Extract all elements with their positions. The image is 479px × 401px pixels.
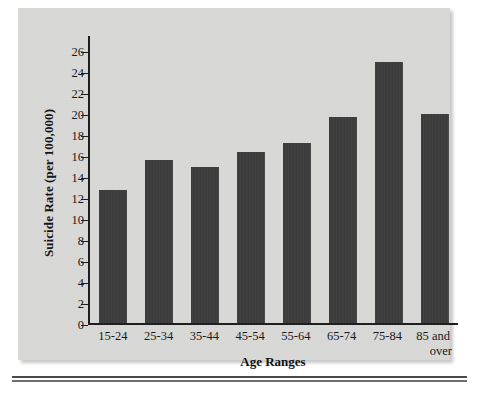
bar [99, 190, 127, 323]
y-tick-label: 10 [72, 214, 85, 227]
y-tick-label: 14 [72, 172, 85, 185]
bar-slot [136, 36, 182, 323]
plot-area: 02468101214161820222426 [88, 36, 458, 325]
x-axis-line [88, 323, 458, 325]
bar [237, 152, 265, 323]
y-tick-label: 16 [72, 151, 85, 164]
y-tick-label: 2 [78, 298, 84, 311]
bar-slot [412, 36, 458, 323]
y-tick-label: 20 [72, 109, 85, 122]
bar-slot [182, 36, 228, 323]
bar-slot [228, 36, 274, 323]
bar [145, 160, 173, 323]
bar-series [90, 36, 458, 323]
page-rule-upper [12, 376, 467, 378]
y-tick-label: 6 [78, 256, 84, 269]
y-tick-label: 12 [72, 193, 85, 206]
bar [329, 117, 357, 323]
y-tick-label: 22 [72, 88, 85, 101]
y-tick-label: 0 [78, 319, 84, 332]
y-axis-title-text: Suicide Rate (per 100,000) [41, 109, 57, 257]
bar-slot [90, 36, 136, 323]
y-tick-label: 24 [72, 67, 85, 80]
y-tick-label: 8 [78, 235, 84, 248]
bar-slot [366, 36, 412, 323]
bar [283, 143, 311, 323]
bar [421, 114, 449, 323]
page-rule-lower [12, 380, 467, 382]
y-tick-label: 4 [78, 277, 84, 290]
y-tick-label: 26 [72, 46, 85, 59]
bar-slot [274, 36, 320, 323]
y-axis-title: Suicide Rate (per 100,000) [40, 68, 58, 298]
x-axis-title: Age Ranges [88, 354, 458, 370]
scanned-page: Suicide Rate (per 100,000) 0246810121416… [0, 0, 479, 401]
y-tick-label: 18 [72, 130, 85, 143]
bar-slot [320, 36, 366, 323]
bar [375, 62, 403, 323]
bar [191, 167, 219, 323]
chart-figure-panel: Suicide Rate (per 100,000) 0246810121416… [18, 8, 450, 360]
